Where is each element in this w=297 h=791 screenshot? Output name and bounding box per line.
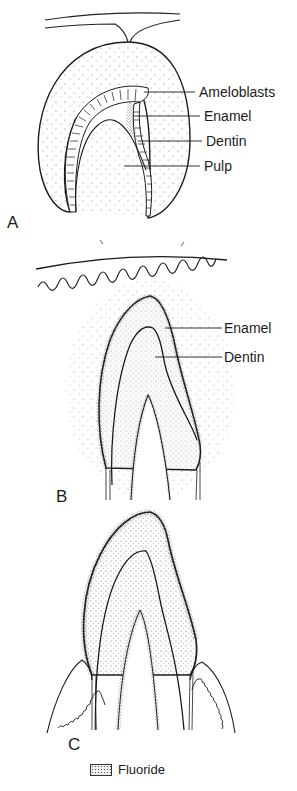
- panel-letter-a: A: [7, 214, 18, 231]
- panel-letter-b: B: [56, 488, 67, 505]
- legend: Fluoride: [90, 762, 165, 777]
- label-enamel-b: Enamel: [224, 321, 271, 335]
- label-dentin-b: Dentin: [224, 350, 264, 364]
- panel-c-illustration: [47, 512, 235, 733]
- label-enamel-a: Enamel: [204, 109, 251, 123]
- tooth-development-figure: Ameloblasts Enamel Dentin Pulp A Enamel …: [0, 0, 297, 791]
- panel-b-illustration: [36, 240, 235, 500]
- fluoride-swatch-icon: [90, 764, 112, 776]
- panel-letter-c: C: [68, 736, 80, 753]
- legend-label-fluoride: Fluoride: [118, 762, 165, 777]
- label-pulp-a: Pulp: [204, 159, 232, 173]
- label-dentin-a: Dentin: [206, 134, 246, 148]
- figure-illustration: [0, 0, 297, 791]
- label-ameloblasts: Ameloblasts: [199, 85, 275, 99]
- panel-a-illustration: [38, 13, 202, 218]
